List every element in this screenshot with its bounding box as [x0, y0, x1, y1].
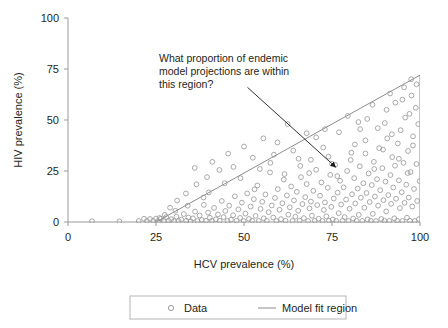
annotation-callout: What proportion of endemic model project… — [159, 52, 336, 167]
data-point — [401, 160, 406, 165]
data-point — [398, 206, 403, 211]
data-point — [405, 171, 410, 176]
data-point — [410, 204, 415, 209]
data-point — [298, 164, 303, 169]
y-axis-ticks: 0255075100 — [41, 12, 68, 228]
x-axis-title: HCV prevalence (%) — [194, 258, 294, 270]
data-point — [248, 204, 253, 209]
data-point — [266, 210, 271, 215]
data-point — [346, 219, 351, 224]
data-point — [318, 193, 323, 198]
axis-lines — [68, 18, 420, 222]
data-point — [384, 209, 389, 214]
data-point — [231, 213, 236, 218]
y-tick-label: 50 — [47, 114, 59, 126]
data-point — [370, 102, 375, 107]
data-point — [400, 97, 405, 102]
data-point — [393, 163, 398, 168]
data-point — [372, 167, 377, 172]
data-point — [370, 211, 375, 216]
data-point — [307, 171, 312, 176]
data-point — [358, 195, 363, 200]
data-point — [394, 196, 399, 201]
data-point — [168, 205, 173, 210]
data-point — [275, 187, 280, 192]
data-point — [294, 189, 299, 194]
data-point — [258, 207, 263, 212]
y-tick-label: 75 — [47, 63, 59, 75]
data-point — [227, 203, 232, 208]
data-point — [402, 85, 407, 90]
data-point — [413, 105, 418, 110]
data-point — [358, 127, 363, 132]
data-point — [390, 155, 395, 160]
data-point — [399, 190, 404, 195]
data-point — [181, 212, 186, 217]
data-point — [269, 203, 274, 208]
data-point — [201, 202, 206, 207]
data-point — [232, 194, 237, 199]
data-point — [360, 219, 365, 224]
x-axis-ticks: 0255075100 — [65, 222, 429, 243]
data-point — [268, 160, 273, 165]
legend-label-data: Data — [184, 302, 208, 314]
data-point — [319, 180, 324, 185]
data-point — [348, 158, 353, 163]
y-axis-title: HIV prevalence (%) — [12, 72, 24, 167]
data-point — [314, 167, 319, 172]
data-point — [289, 184, 294, 189]
data-point — [273, 196, 278, 201]
data-point — [321, 145, 326, 150]
data-point — [353, 201, 358, 206]
data-point — [261, 136, 266, 141]
data-point — [414, 162, 419, 167]
x-tick-label: 75 — [326, 231, 338, 243]
data-point — [290, 219, 295, 224]
data-point — [371, 159, 376, 164]
data-point — [315, 203, 320, 208]
x-tick-label: 50 — [238, 231, 250, 243]
data-point — [326, 154, 331, 159]
data-point — [194, 182, 199, 187]
data-point — [304, 131, 309, 136]
annotation-line-1: What proportion of endemic — [159, 52, 288, 64]
data-point — [193, 209, 198, 214]
data-point — [363, 138, 368, 143]
data-point — [352, 142, 357, 147]
data-point — [300, 202, 305, 207]
data-point — [212, 206, 217, 211]
data-point — [314, 135, 319, 140]
data-point — [385, 136, 390, 141]
data-point — [261, 216, 266, 221]
data-point — [303, 195, 308, 200]
data-point — [277, 207, 282, 212]
data-point — [238, 176, 243, 181]
data-point — [396, 156, 401, 161]
data-point — [281, 177, 286, 182]
data-point — [337, 130, 342, 135]
data-point — [210, 159, 215, 164]
data-point — [197, 213, 202, 218]
y-tick-label: 0 — [53, 216, 59, 228]
data-point — [376, 203, 381, 208]
data-point — [239, 200, 244, 205]
data-point — [192, 166, 197, 171]
data-point — [396, 178, 401, 183]
data-point — [375, 126, 380, 131]
scatter-plot-figure: 0255075100 0255075100 What proportion of… — [0, 0, 448, 328]
data-point — [407, 111, 412, 116]
data-point — [243, 211, 248, 216]
data-point — [389, 201, 394, 206]
data-point — [292, 198, 297, 203]
data-point — [175, 198, 180, 203]
data-point — [268, 170, 273, 175]
data-point — [367, 200, 372, 205]
data-point — [324, 214, 329, 219]
data-point — [286, 212, 291, 217]
data-point — [251, 197, 256, 202]
data-point — [408, 170, 413, 175]
x-tick-label: 25 — [150, 231, 162, 243]
data-point — [306, 219, 311, 224]
data-point — [219, 199, 224, 204]
data-point — [335, 190, 340, 195]
